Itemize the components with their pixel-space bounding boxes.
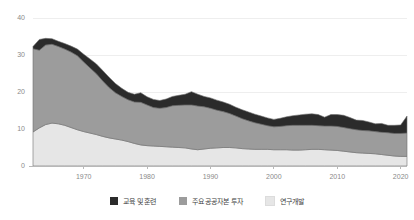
x-tick-label-2010: 2010 xyxy=(329,173,345,180)
y-tick-label-10: 10 xyxy=(17,125,25,132)
chart-legend: 교육 및 훈련주요 공공자본 투자연구개발 xyxy=(0,193,414,209)
legend-item-3[interactable]: 연구개발 xyxy=(265,196,304,206)
legend-item-1[interactable]: 교육 및 훈련 xyxy=(110,197,157,205)
y-tick-label-20: 20 xyxy=(17,88,25,95)
legend-label-1: 교육 및 훈련 xyxy=(123,198,157,205)
legend-label-2: 주요 공공자본 투자 xyxy=(192,198,244,205)
x-tick-label-2020: 2020 xyxy=(393,173,409,180)
legend-swatch-public-capital xyxy=(179,197,187,205)
legend-swatch-rnd xyxy=(265,196,275,206)
x-tick-label-1980: 1980 xyxy=(139,173,155,180)
legend-swatch-education xyxy=(110,197,118,205)
x-axis-tick-labels: 197019801990200020102020 xyxy=(76,173,409,180)
chart-canvas: 010203040 197019801990200020102020 xyxy=(0,0,414,220)
legend-label-3: 연구개발 xyxy=(280,198,304,205)
x-tick-label-1990: 1990 xyxy=(203,173,219,180)
axis-lines xyxy=(29,166,407,169)
y-axis-tick-labels: 010203040 xyxy=(17,14,25,169)
x-tick-label-1970: 1970 xyxy=(76,173,92,180)
legend-item-2[interactable]: 주요 공공자본 투자 xyxy=(179,197,244,205)
x-tick-label-2000: 2000 xyxy=(266,173,282,180)
stacked-area-chart: 010203040 197019801990200020102020 교육 및 … xyxy=(0,0,414,220)
y-tick-label-40: 40 xyxy=(17,14,25,21)
y-tick-label-30: 30 xyxy=(17,51,25,58)
y-tick-label-0: 0 xyxy=(21,162,25,169)
plot-areas xyxy=(33,38,407,166)
